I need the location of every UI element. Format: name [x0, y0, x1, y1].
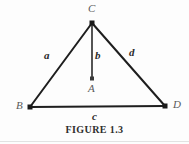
figure-container: C B D A a b c d FIGURE 1.3 — [0, 0, 189, 144]
vertex-marker-C — [90, 21, 95, 26]
side-label-b: b — [95, 50, 101, 61]
vertex-label-d: D — [173, 99, 181, 110]
side-label-a: a — [44, 50, 50, 61]
segment-c-line — [30, 106, 165, 107]
bottom-divider — [0, 141, 189, 142]
triangle-diagram — [0, 0, 189, 144]
vertex-label-a: A — [88, 83, 95, 94]
segment-a-line — [30, 23, 92, 107]
vertex-marker-D — [163, 104, 168, 109]
vertex-marker-A — [90, 77, 94, 81]
side-label-c: c — [92, 111, 97, 122]
vertex-marker-B — [28, 105, 33, 110]
vertex-label-b: B — [16, 100, 23, 111]
side-label-d: d — [129, 47, 135, 58]
figure-caption: FIGURE 1.3 — [0, 124, 189, 135]
vertex-label-c: C — [88, 3, 95, 14]
segment-d-line — [92, 23, 165, 106]
